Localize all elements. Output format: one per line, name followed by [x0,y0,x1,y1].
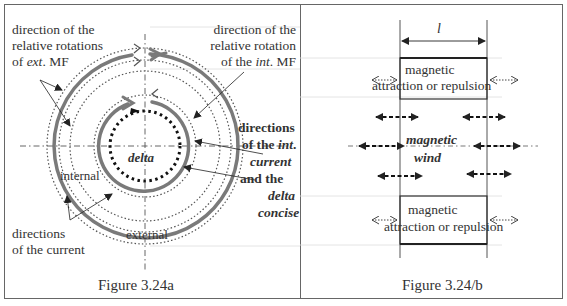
ext-rotation-line3: of ext. MF [12,54,103,70]
int-rotation-line1: direction of the [198,22,296,38]
external-label: external [126,227,168,243]
figure-caption-a: Figure 3.24a [98,277,174,294]
length-symbol: l [437,21,441,37]
int-current-label: directions of the int. current and the d… [240,119,296,221]
int-current-line2: of the int. [242,136,296,153]
int-rotation-line3: of the int. MF [198,54,296,70]
int-current-line6: concise [258,204,296,221]
text: of [12,54,27,69]
attraction-repulsion-arrows [372,80,518,220]
int-rotation-label: direction of the relative rotation of th… [198,22,296,70]
text: . MF [42,54,68,69]
bottom-block-line2: attraction or repulsion [384,219,503,235]
text: . MF [270,54,296,69]
wind-line1: magnetic [406,132,457,148]
rotation-arrowheads [123,49,166,109]
figure-caption-b: Figure 3.24/b [402,277,483,294]
wind-line2: wind [414,150,441,166]
text-italic: ext [27,54,43,69]
text: of the [242,137,278,152]
delta-label: delta [128,150,154,166]
top-block-line1: magnetic [405,62,454,78]
int-current-line5: delta [268,187,296,204]
bottom-block-line1: magnetic [408,202,457,218]
ext-rotation-line2: relative rotations [12,38,103,54]
top-block-line2: attraction or repulsion [372,78,491,94]
text-italic: int [278,137,293,152]
int-current-line3: current [250,153,296,170]
current-direction-label: directions of the current [12,226,85,258]
int-current-line4: and the [240,170,296,187]
text: . [293,137,296,152]
ext-rotation-line1: direction of the [12,22,103,38]
int-rotation-line2: relative rotation [198,38,296,54]
current-line2: of the current [12,242,85,258]
ext-rotation-label: direction of the relative rotations of e… [12,22,103,70]
current-line1: directions [12,226,85,242]
text-italic: int [255,54,269,69]
text: of the [221,54,256,69]
internal-label: internal [60,168,100,184]
int-current-line1: directions [238,119,296,136]
